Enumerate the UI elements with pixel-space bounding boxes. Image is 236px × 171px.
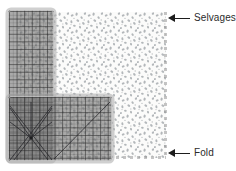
ruler-edge-highlight-horizontal [8, 96, 112, 161]
callout-fold-label: Fold [194, 148, 214, 158]
ruler-horizontal-arm [8, 96, 112, 161]
arrow-left-icon [168, 14, 190, 23]
quilting-ruler [8, 10, 112, 161]
callout-selvages-label: Selvages [194, 13, 236, 23]
arrow-left-icon [168, 149, 190, 158]
selvage-edge [164, 12, 167, 158]
callout-fold: Fold [168, 148, 214, 158]
callout-selvages: Selvages [168, 13, 236, 23]
diagram-canvas: Selvages Fold [0, 0, 236, 171]
ruler-body [8, 10, 112, 161]
